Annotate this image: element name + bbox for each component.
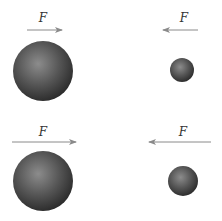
force-label: F: [178, 125, 188, 139]
panel-top-right: F: [163, 11, 198, 82]
medium-sphere: [168, 166, 198, 196]
force-label: F: [179, 11, 189, 25]
panel-bottom-left: F: [12, 125, 76, 211]
force-label: F: [38, 125, 48, 139]
large-sphere: [13, 151, 73, 211]
panel-top-left: F: [13, 11, 73, 101]
large-sphere: [13, 41, 73, 101]
force-diagram: F F F F: [0, 0, 222, 221]
force-label: F: [38, 11, 48, 25]
small-sphere: [170, 58, 194, 82]
panel-bottom-right: F: [149, 125, 211, 196]
